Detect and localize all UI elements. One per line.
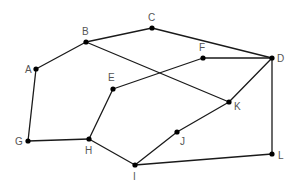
node-g [25, 138, 30, 143]
node-e [110, 86, 115, 91]
edge-a-b [36, 42, 86, 69]
node-a [33, 66, 38, 71]
edge-c-d [152, 28, 272, 58]
node-label-d: D [277, 53, 284, 64]
node-label-h: H [85, 145, 92, 156]
node-label-j: J [180, 136, 185, 147]
node-b [83, 39, 88, 44]
node-i [132, 162, 137, 167]
edge-h-i [89, 139, 135, 165]
node-f [200, 55, 205, 60]
node-l [269, 151, 274, 156]
edge-e-f [113, 58, 203, 89]
node-label-l: L [278, 150, 284, 161]
node-label-c: C [148, 12, 155, 23]
edge-d-k [229, 58, 272, 102]
nodes-group [25, 25, 274, 167]
edge-i-l [135, 154, 272, 165]
node-label-f: F [199, 42, 205, 53]
graph-diagram: ABCDEFGHIJKL [0, 0, 298, 186]
node-label-a: A [25, 64, 32, 75]
edge-b-c [86, 28, 152, 42]
node-d [269, 55, 274, 60]
edge-h-e [89, 89, 113, 139]
edge-g-h [28, 139, 89, 141]
edges-group [28, 28, 272, 165]
node-label-e: E [108, 72, 115, 83]
node-label-g: G [15, 136, 23, 147]
node-j [174, 129, 179, 134]
edge-a-g [28, 69, 36, 141]
edge-i-j [135, 132, 177, 165]
node-k [226, 99, 231, 104]
node-label-k: K [234, 101, 241, 112]
edge-j-k [177, 102, 229, 132]
node-label-i: I [133, 171, 136, 182]
node-h [86, 136, 91, 141]
node-c [149, 25, 154, 30]
node-label-b: B [82, 26, 89, 37]
